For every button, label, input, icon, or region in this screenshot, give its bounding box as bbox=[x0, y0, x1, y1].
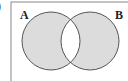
venn-diagram: ) A B bbox=[0, 0, 128, 81]
item-number-fragment: ) bbox=[0, 0, 1, 12]
set-a-label: A bbox=[20, 8, 29, 22]
set-b-label: B bbox=[115, 8, 123, 22]
venn-svg: A B bbox=[0, 0, 128, 81]
